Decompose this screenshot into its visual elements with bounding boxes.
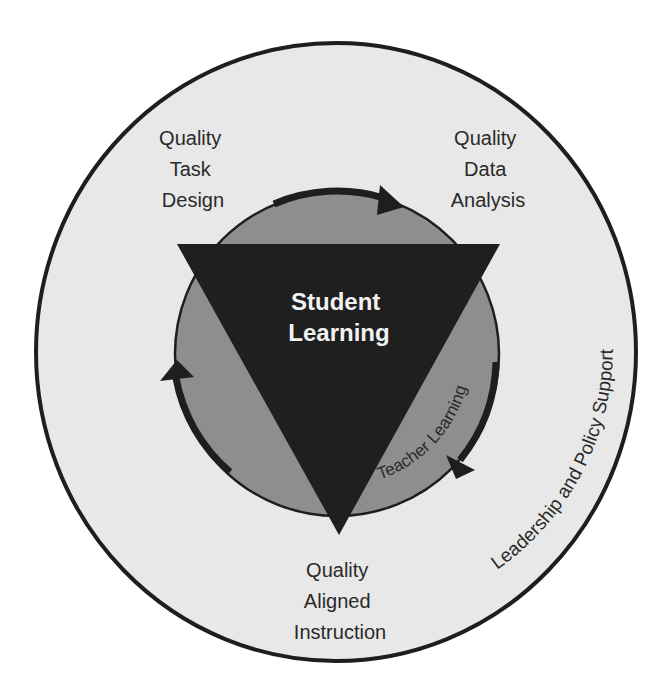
node-top-right-line1: Quality [454, 127, 516, 149]
node-top-right-line3: Analysis [451, 189, 525, 211]
node-quality-aligned-instruction: Quality Aligned Instruction [294, 559, 386, 643]
center-label-line1: Student [291, 288, 380, 315]
center-label-line2: Learning [288, 319, 389, 346]
node-top-right-line2: Data [464, 158, 507, 180]
node-top-left-line1: Quality [159, 127, 221, 149]
node-top-left-line3: Design [162, 189, 224, 211]
node-top-left-line2: Task [170, 158, 212, 180]
node-bottom-line3: Instruction [294, 621, 386, 643]
node-bottom-line1: Quality [306, 559, 368, 581]
student-learning-diagram: Student Learning Quality Task Design Qua… [0, 0, 661, 691]
node-bottom-line2: Aligned [304, 590, 371, 612]
